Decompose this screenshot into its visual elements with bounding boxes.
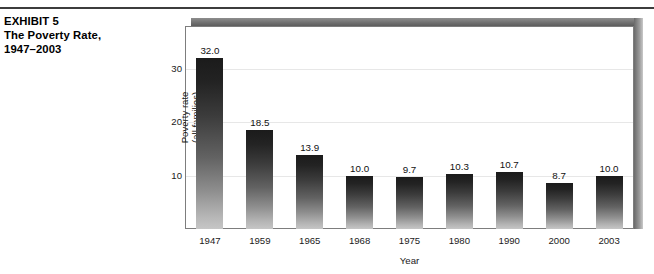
x-axis-tick-label: 1968 xyxy=(335,235,385,246)
bar-value-label: 18.5 xyxy=(235,117,285,128)
exhibit-number: EXHIBIT 5 xyxy=(4,14,154,28)
x-axis-tick-label: 1980 xyxy=(434,235,484,246)
x-axis-tick-label: 1975 xyxy=(385,235,435,246)
bar-value-label: 9.7 xyxy=(385,164,435,175)
bar-value-label: 32.0 xyxy=(185,45,235,56)
x-axis-tick-label: 1959 xyxy=(235,235,285,246)
bar-value-label: 10.3 xyxy=(434,161,484,172)
bar-value-label: 10.7 xyxy=(484,159,534,170)
exhibit-title-line-1: The Poverty Rate, xyxy=(4,28,154,42)
x-axis-tick-label: 2000 xyxy=(534,235,584,246)
x-axis-tick-label: 2003 xyxy=(584,235,634,246)
bar xyxy=(196,58,223,229)
bar xyxy=(296,155,323,229)
exhibit-caption: EXHIBIT 5 The Poverty Rate, 1947–2003 xyxy=(4,14,154,57)
bar xyxy=(496,172,523,229)
chart-3d-right-edge xyxy=(634,18,643,229)
x-axis-tick-label: 1965 xyxy=(285,235,335,246)
bar-value-label: 10.0 xyxy=(584,163,634,174)
bar xyxy=(596,176,623,229)
bar xyxy=(396,177,423,229)
top-divider-rule xyxy=(0,7,654,9)
poverty-rate-bar-chart: 102030 Poverty rate (all families) Year … xyxy=(160,18,654,274)
bar-value-label: 10.0 xyxy=(335,163,385,174)
bar xyxy=(546,183,573,229)
gridline xyxy=(186,69,633,70)
bar xyxy=(346,176,373,229)
bar-value-label: 8.7 xyxy=(534,170,584,181)
x-axis-tick-label: 1990 xyxy=(484,235,534,246)
x-axis-tick-label: 1947 xyxy=(185,235,235,246)
bar-value-label: 13.9 xyxy=(285,142,335,153)
bar xyxy=(446,174,473,229)
bar xyxy=(246,130,273,229)
exhibit-title-line-2: 1947–2003 xyxy=(4,42,154,56)
x-axis-label: Year xyxy=(185,255,634,266)
